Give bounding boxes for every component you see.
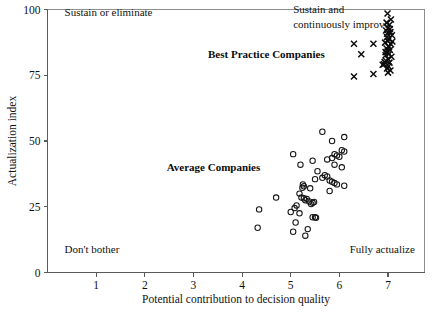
data-point-circle	[305, 226, 310, 231]
group-annotation: Average Companies	[167, 161, 261, 173]
group-annotation: Best Practice Companies	[208, 48, 325, 60]
x-tick-label: 7	[385, 279, 391, 291]
y-tick-label: 0	[35, 267, 41, 279]
x-tick-label: 3	[191, 279, 197, 291]
quadrant-annotation: Sustain and	[293, 3, 345, 15]
scatter-plot-figure: 02550751001234567Potential contribution …	[0, 0, 442, 321]
data-point-circle	[329, 138, 334, 143]
data-point-cross	[385, 70, 391, 76]
quadrant-annotation: Sustain or eliminate	[65, 6, 153, 18]
data-point-circle	[297, 211, 302, 216]
x-tick-label: 5	[288, 279, 294, 291]
y-tick-label: 100	[23, 4, 41, 16]
data-point-cross	[358, 51, 364, 57]
x-tick-label: 6	[336, 279, 342, 291]
data-point-circle	[339, 165, 344, 170]
x-tick-label: 4	[239, 279, 245, 291]
data-point-circle	[301, 184, 306, 189]
data-point-circle	[312, 176, 317, 181]
data-point-cross	[351, 74, 357, 80]
quadrant-annotation: continuously improve	[293, 18, 389, 30]
series-average	[255, 129, 347, 238]
data-point-circle	[325, 157, 330, 162]
data-point-cross	[385, 10, 391, 16]
data-point-circle	[290, 151, 295, 156]
data-point-circle	[307, 186, 312, 191]
scatter-plot-canvas: 02550751001234567Potential contribution …	[0, 0, 442, 321]
x-tick-label: 2	[142, 279, 148, 291]
data-point-circle	[327, 188, 332, 193]
x-axis-title: Potential contribution to decision quali…	[142, 293, 330, 306]
data-point-circle	[298, 162, 303, 167]
data-point-cross	[370, 41, 376, 47]
data-point-cross	[351, 41, 357, 47]
data-point-circle	[273, 195, 278, 200]
data-point-circle	[293, 220, 298, 225]
data-point-circle	[310, 158, 315, 163]
data-point-circle	[320, 129, 325, 134]
data-point-circle	[315, 169, 320, 174]
y-tick-label: 75	[29, 69, 41, 81]
data-point-cross	[370, 71, 376, 77]
data-point-circle	[288, 209, 293, 214]
data-point-circle	[256, 207, 261, 212]
y-axis-title: Actualization index	[6, 96, 18, 187]
data-point-circle	[303, 233, 308, 238]
data-point-circle	[290, 229, 295, 234]
data-point-circle	[342, 183, 347, 188]
quadrant-annotation: Don't bother	[65, 243, 120, 255]
y-tick-label: 25	[29, 201, 41, 213]
data-point-circle	[332, 162, 337, 167]
y-tick-label: 50	[29, 135, 41, 147]
data-point-circle	[342, 134, 347, 139]
data-point-circle	[300, 185, 305, 190]
x-tick-label: 1	[93, 279, 99, 291]
quadrant-annotation: Fully actualize	[350, 243, 415, 255]
data-point-circle	[255, 225, 260, 230]
